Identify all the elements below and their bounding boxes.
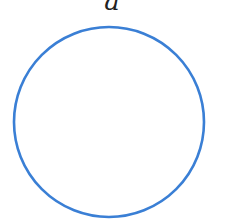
circle-shape bbox=[14, 27, 204, 217]
diagram-canvas bbox=[0, 0, 241, 222]
